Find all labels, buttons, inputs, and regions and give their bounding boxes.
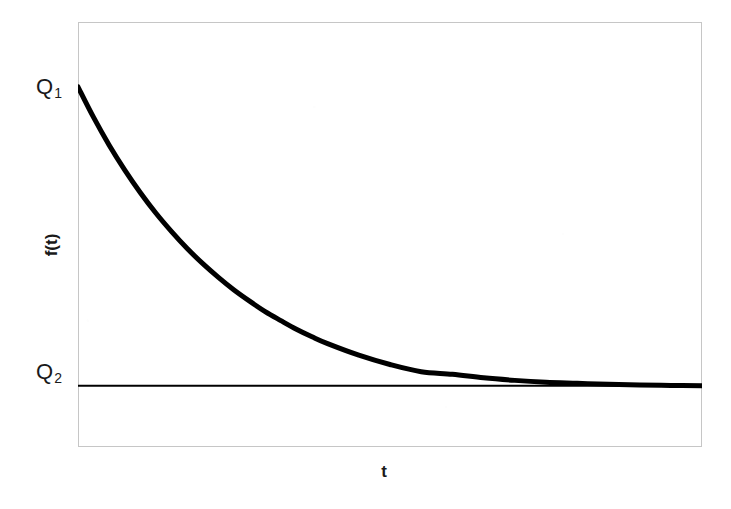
q1-tick-label: Q1 bbox=[36, 74, 61, 100]
y-axis-label: f(t) bbox=[12, 231, 92, 259]
x-axis-label: t bbox=[360, 462, 408, 482]
plot-canvas bbox=[78, 22, 702, 447]
q2-base: Q bbox=[36, 359, 53, 384]
q2-tick-label: Q2 bbox=[36, 359, 61, 385]
decay-curve bbox=[78, 87, 702, 386]
q1-base: Q bbox=[36, 74, 53, 99]
q1-subscript: 1 bbox=[54, 85, 62, 101]
figure-container: Q1 Q2 f(t) t bbox=[0, 0, 731, 509]
q2-subscript: 2 bbox=[54, 370, 62, 386]
